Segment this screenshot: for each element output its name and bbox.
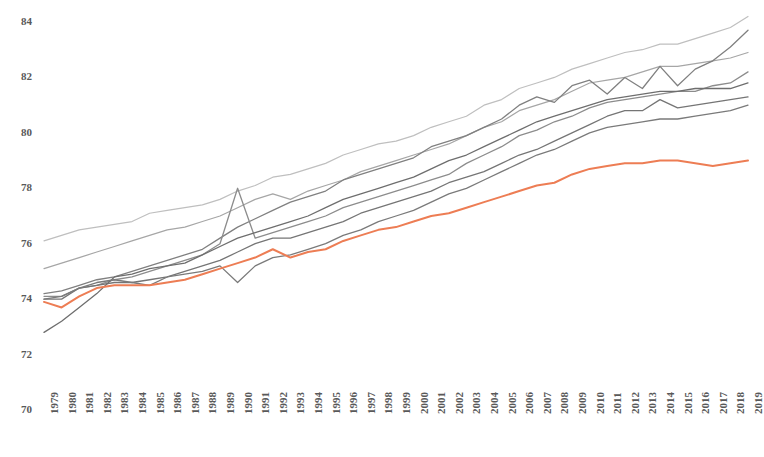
x-axis-tick-label: 1983: [119, 392, 130, 414]
x-axis-tick-label: 1992: [278, 392, 289, 414]
x-axis-tick-label: 2009: [577, 392, 588, 414]
x-axis-tick-label: 1982: [102, 392, 113, 414]
x-axis-tick-label: 1980: [67, 392, 78, 414]
x-axis-tick-label: 2006: [524, 392, 535, 414]
x-axis-tick-label: 2003: [471, 392, 482, 414]
x-axis-tick-label: 1988: [207, 392, 218, 414]
x-axis-tick-label: 2000: [419, 392, 430, 414]
x-axis-tick-label: 2007: [542, 392, 553, 414]
x-axis-tick-label: 2017: [718, 392, 729, 414]
x-axis-tick-label: 2018: [735, 392, 746, 414]
x-axis-tick-label: 2014: [665, 392, 676, 414]
x-axis-tick-label: 1991: [260, 392, 271, 414]
x-axis-tick-label: 2015: [683, 392, 694, 414]
x-axis-tick-label: 1990: [243, 392, 254, 414]
x-axis-tick-label: 2001: [436, 392, 447, 414]
x-axis-tick-label: 2008: [559, 392, 570, 414]
x-axis-tick-label: 1986: [172, 392, 183, 414]
x-axis-tick-label: 2005: [507, 392, 518, 414]
x-axis-tick-label: 1979: [49, 392, 60, 414]
x-axis-tick-label: 2019: [753, 392, 764, 414]
x-axis-tick-label: 1985: [155, 392, 166, 414]
x-axis-tick-label: 1994: [313, 392, 324, 414]
x-axis-tick-label: 2012: [630, 392, 641, 414]
x-axis-tick-label: 2004: [489, 392, 500, 414]
x-axis-tick-label: 2013: [647, 392, 658, 414]
x-axis-tick-label: 1987: [190, 392, 201, 414]
x-axis-tick-label: 1997: [366, 392, 377, 414]
x-axis-tick-label: 2016: [700, 392, 711, 414]
x-axis-tick-label: 1981: [84, 392, 95, 414]
x-axis-tick-label: 1998: [383, 392, 394, 414]
x-axis-tick-label: 1995: [331, 392, 342, 414]
x-axis-tick-label: 2011: [612, 393, 623, 414]
x-axis-tick-label: 2010: [595, 392, 606, 414]
x-axis-tick-label: 1999: [401, 392, 412, 414]
x-axis-tick-label: 2002: [454, 392, 465, 414]
x-axis-tick-label: 1993: [295, 392, 306, 414]
x-axis-tick-label: 1984: [137, 392, 148, 414]
x-axis-tick-label: 1989: [225, 392, 236, 414]
x-axis-tick-label: 1996: [348, 392, 359, 414]
